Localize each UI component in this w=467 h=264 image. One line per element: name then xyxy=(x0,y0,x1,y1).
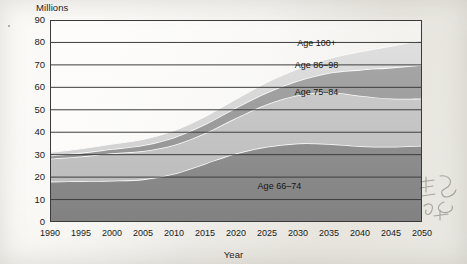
y-tick-90: 90 xyxy=(19,15,45,25)
y-tick-70: 70 xyxy=(19,60,45,70)
y-tick-30: 30 xyxy=(19,150,45,160)
x-tick-2010: 2010 xyxy=(159,229,189,238)
x-tick-2040: 2040 xyxy=(345,229,375,238)
y-tick-60: 60 xyxy=(19,82,45,92)
y-tick-80: 80 xyxy=(19,37,45,47)
x-tick-2020: 2020 xyxy=(221,229,251,238)
x-tick-2025: 2025 xyxy=(252,229,282,238)
series-label-age-75-84: Age 75–84 xyxy=(295,87,339,97)
x-tick-1990: 1990 xyxy=(35,229,65,238)
y-tick-40: 40 xyxy=(19,127,45,137)
x-tick-2030: 2030 xyxy=(283,229,313,238)
series-label-age-66-74: Age 66–74 xyxy=(258,181,302,191)
x-tick-2045: 2045 xyxy=(376,229,406,238)
x-tick-1995: 1995 xyxy=(66,229,96,238)
x-tick-2000: 2000 xyxy=(97,229,127,238)
pencil-dot-mark xyxy=(8,25,10,27)
y-tick-0: 0 xyxy=(19,217,45,227)
y-tick-50: 50 xyxy=(19,105,45,115)
x-tick-2005: 2005 xyxy=(128,229,158,238)
series-label-age-86-98: Age 86–98 xyxy=(295,60,339,70)
x-tick-2015: 2015 xyxy=(190,229,220,238)
y-tick-20: 20 xyxy=(19,172,45,182)
stacked-area-chart-figure: Millions 0102030405060708090 19901995200… xyxy=(0,0,467,264)
y-axis-title: Millions xyxy=(36,2,68,13)
plot-area xyxy=(50,20,422,222)
x-tick-2050: 2050 xyxy=(407,229,437,238)
series-label-age-100-: Age 100+ xyxy=(297,38,336,48)
plot-svg xyxy=(50,20,422,222)
x-axis-title: Year xyxy=(0,249,467,260)
x-tick-2035: 2035 xyxy=(314,229,344,238)
y-tick-10: 10 xyxy=(19,195,45,205)
